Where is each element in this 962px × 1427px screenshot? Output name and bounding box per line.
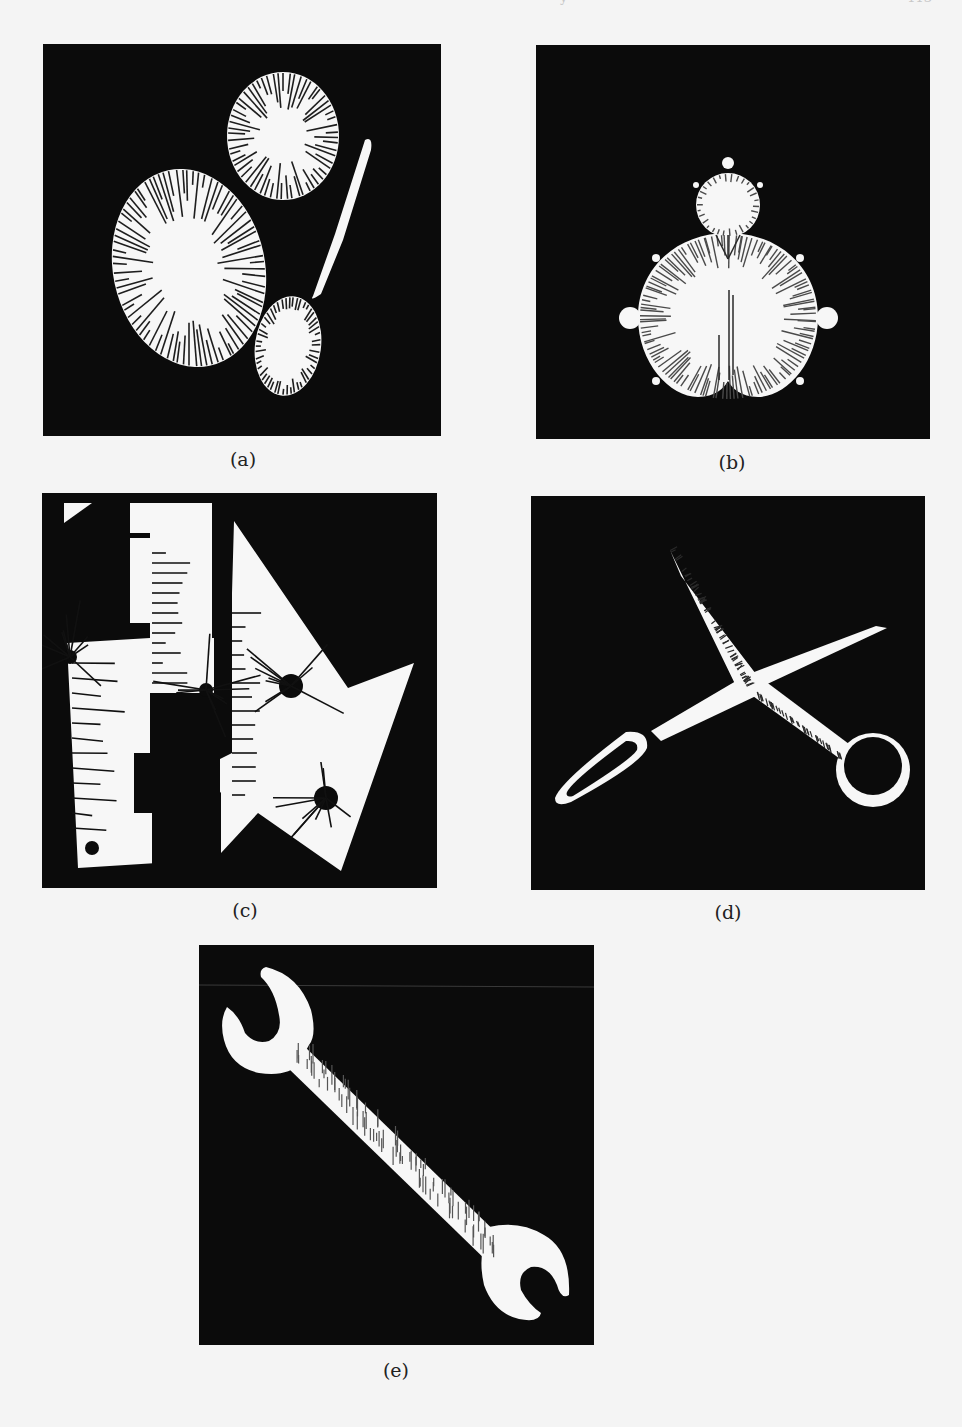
page-header: y 113 — [0, 0, 962, 14]
caption-e: (e) — [383, 1359, 409, 1381]
caption-a: (a) — [230, 448, 256, 470]
wrench-image — [199, 945, 594, 1345]
caption-c: (c) — [232, 899, 257, 921]
scissors-image — [531, 496, 925, 890]
figure-panel-e — [199, 945, 594, 1345]
header-fragment: y — [560, 0, 567, 5]
caption-d: (d) — [715, 901, 742, 923]
polygons-image — [42, 493, 437, 888]
mandelbrot-image — [536, 45, 930, 439]
figure-panel-d — [531, 496, 925, 890]
figure-panel-c — [42, 493, 437, 888]
figure-panel-a — [43, 44, 441, 436]
caption-b: (b) — [719, 451, 746, 473]
figure-panel-b — [536, 45, 930, 439]
page-number: 113 — [907, 0, 932, 5]
ellipses-spoon-image — [43, 44, 441, 436]
